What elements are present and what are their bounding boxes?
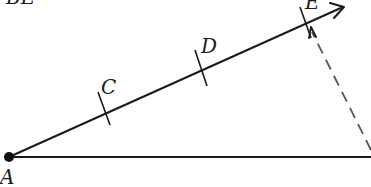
label-d: D [201, 36, 217, 56]
point-a-dot [4, 152, 14, 162]
label-c: C [101, 77, 116, 97]
cut-off-heading-fragment: BE [6, 0, 35, 7]
geometry-figure [0, 0, 371, 187]
label-e: E [305, 0, 320, 12]
dashed-line-to-e [312, 32, 371, 150]
label-a: A [0, 167, 14, 187]
ray-ae [9, 7, 343, 157]
